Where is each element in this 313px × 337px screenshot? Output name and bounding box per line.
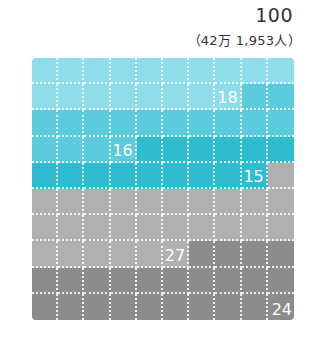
waffle-cell-segment-4: [268, 163, 294, 189]
waffle-cell-segment-4: [32, 241, 58, 267]
waffle-cell-segment-4: [163, 215, 189, 241]
waffle-cell-segment-5: [163, 268, 189, 294]
segment-value-label: 24: [272, 302, 292, 318]
waffle-cell-segment-3: [215, 163, 241, 189]
waffle-cell-segment-4: [189, 189, 215, 215]
waffle-cell-segment-5: [163, 294, 189, 320]
waffle-cell-segment-3: [189, 163, 215, 189]
total-value: 100: [255, 4, 293, 26]
waffle-cell-segment-3: [111, 163, 137, 189]
waffle-cell-segment-2: [163, 110, 189, 136]
waffle-cell-segment-5: [84, 294, 110, 320]
waffle-cell-segment-3: [189, 137, 215, 163]
waffle-cell-segment-3: [215, 137, 241, 163]
segment-value-label: 18: [217, 90, 237, 106]
waffle-cell-segment-4: 27: [163, 241, 189, 267]
waffle-cell-segment-4: [111, 189, 137, 215]
waffle-cell-segment-5: [32, 294, 58, 320]
waffle-cell-segment-4: [84, 241, 110, 267]
waffle-cell-segment-3: [163, 163, 189, 189]
waffle-chart: 1816152724: [32, 58, 294, 320]
waffle-cell-segment-5: [189, 294, 215, 320]
waffle-cell-segment-4: [189, 215, 215, 241]
waffle-cell-segment-3: [268, 137, 294, 163]
waffle-cell-segment-4: [32, 189, 58, 215]
waffle-cell-segment-5: [58, 294, 84, 320]
waffle-cell-segment-4: [137, 241, 163, 267]
segment-value-label: 15: [243, 169, 263, 185]
waffle-cell-segment-2: [84, 137, 110, 163]
waffle-cell-segment-2: [84, 110, 110, 136]
waffle-cell-segment-1: [189, 84, 215, 110]
waffle-cell-segment-1: [58, 58, 84, 84]
waffle-cell-segment-5: [215, 294, 241, 320]
waffle-cell-segment-4: [111, 215, 137, 241]
waffle-cell-segment-5: [32, 268, 58, 294]
waffle-cell-segment-4: [84, 215, 110, 241]
waffle-cell-segment-5: [189, 268, 215, 294]
waffle-cell-segment-3: 15: [242, 163, 268, 189]
waffle-cell-segment-3: [58, 163, 84, 189]
waffle-cell-segment-1: [163, 84, 189, 110]
waffle-cell-segment-1: [111, 84, 137, 110]
waffle-cell-segment-2: [58, 137, 84, 163]
waffle-cell-segment-3: [32, 163, 58, 189]
waffle-cell-segment-3: [242, 137, 268, 163]
waffle-cell-segment-2: [137, 110, 163, 136]
waffle-cell-segment-2: 16: [111, 137, 137, 163]
waffle-cell-segment-5: [137, 268, 163, 294]
waffle-cell-segment-4: [58, 241, 84, 267]
waffle-cell-segment-5: [268, 241, 294, 267]
population-subtitle: （42万 1,953人）: [188, 30, 302, 49]
waffle-cell-segment-1: [84, 58, 110, 84]
waffle-cell-segment-1: [58, 84, 84, 110]
waffle-cell-segment-4: [215, 215, 241, 241]
waffle-cell-segment-5: [137, 294, 163, 320]
waffle-cell-segment-2: [32, 137, 58, 163]
waffle-cell-segment-1: [137, 84, 163, 110]
waffle-cell-segment-4: [58, 215, 84, 241]
waffle-cell-segment-2: [268, 110, 294, 136]
waffle-cell-segment-1: [32, 84, 58, 110]
waffle-cell-segment-2: [58, 110, 84, 136]
segment-value-label: 27: [165, 248, 185, 264]
waffle-cell-segment-2: [242, 110, 268, 136]
waffle-cell-segment-4: [268, 189, 294, 215]
waffle-cell-segment-5: [242, 268, 268, 294]
waffle-cell-segment-4: [242, 189, 268, 215]
waffle-cell-segment-4: [137, 189, 163, 215]
waffle-cell-segment-2: [215, 110, 241, 136]
waffle-cell-segment-3: [163, 137, 189, 163]
waffle-cell-segment-3: [137, 163, 163, 189]
waffle-cell-segment-5: [84, 268, 110, 294]
waffle-cell-segment-1: [84, 84, 110, 110]
waffle-cell-segment-5: [58, 268, 84, 294]
waffle-cell-segment-4: [268, 215, 294, 241]
waffle-cell-segment-1: [215, 58, 241, 84]
waffle-cell-segment-2: [32, 110, 58, 136]
waffle-cell-segment-1: [32, 58, 58, 84]
waffle-cell-segment-2: [189, 110, 215, 136]
waffle-cell-segment-5: [242, 241, 268, 267]
waffle-cell-segment-5: [215, 268, 241, 294]
waffle-cell-segment-2: [268, 84, 294, 110]
waffle-cell-segment-1: [163, 58, 189, 84]
waffle-cell-segment-4: [137, 215, 163, 241]
waffle-cell-segment-5: [111, 294, 137, 320]
waffle-cell-segment-5: [111, 268, 137, 294]
waffle-cell-segment-4: [111, 241, 137, 267]
waffle-cell-segment-1: [111, 58, 137, 84]
waffle-cell-segment-5: [242, 294, 268, 320]
waffle-cell-segment-1: [242, 58, 268, 84]
waffle-cell-segment-3: [137, 137, 163, 163]
waffle-cell-segment-5: 24: [268, 294, 294, 320]
segment-value-label: 16: [112, 143, 132, 159]
waffle-cell-segment-4: [242, 215, 268, 241]
waffle-cell-segment-5: [189, 241, 215, 267]
waffle-cell-segment-4: [84, 189, 110, 215]
waffle-cell-segment-2: [242, 84, 268, 110]
waffle-cell-segment-5: [268, 268, 294, 294]
waffle-cell-segment-4: [215, 189, 241, 215]
waffle-cell-segment-4: [58, 189, 84, 215]
waffle-cell-segment-1: 18: [215, 84, 241, 110]
